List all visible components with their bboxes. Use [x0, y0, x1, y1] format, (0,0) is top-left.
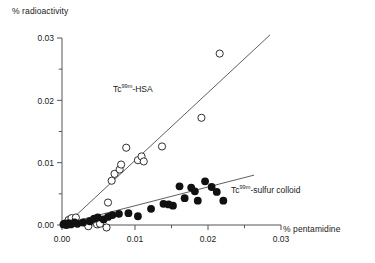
data-point-filled — [134, 212, 142, 220]
data-point-open — [104, 199, 111, 206]
y-tick-label: 0.01 — [37, 158, 54, 168]
scatter-plot: 0.000.010.020.030.000.010.020.03 — [0, 0, 375, 263]
tick-labels: 0.000.010.020.030.000.010.020.03 — [37, 33, 289, 244]
data-point-open — [108, 177, 115, 184]
x-tick-label: 0.01 — [127, 234, 144, 244]
data-point-open — [198, 114, 205, 121]
data-point-filled — [213, 188, 221, 196]
data-point-filled — [181, 194, 189, 202]
data-point-open — [216, 50, 223, 57]
data-point-filled — [176, 182, 184, 190]
y-tick-label: 0.00 — [37, 220, 54, 230]
data-point-filled — [108, 211, 116, 219]
data-point-open — [103, 224, 110, 231]
data-point-filled — [169, 202, 177, 210]
data-point-open — [140, 158, 147, 165]
data-point-open — [123, 144, 130, 151]
data-point-filled — [219, 197, 227, 205]
y-tick-label: 0.02 — [37, 96, 54, 106]
data-point-filled — [147, 205, 155, 213]
data-point-filled — [79, 219, 87, 227]
data-point-filled — [115, 210, 123, 218]
x-tick-label: 0.02 — [200, 234, 217, 244]
data-point-filled — [191, 187, 199, 195]
fit-lines — [65, 35, 270, 225]
x-tick-label: 0.03 — [273, 234, 290, 244]
data-point-filled — [201, 177, 209, 185]
data-point-open — [118, 161, 125, 168]
y-tick-label: 0.03 — [37, 33, 54, 43]
data-point-open — [158, 143, 165, 150]
fit-line-hsa — [66, 35, 270, 225]
data-point-filled — [194, 197, 202, 205]
x-tick-label: 0.00 — [54, 234, 71, 244]
data-point-filled — [125, 209, 133, 217]
